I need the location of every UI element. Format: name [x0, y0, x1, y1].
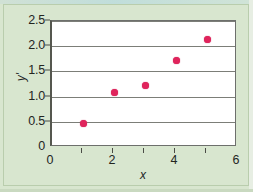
data-point — [80, 120, 87, 127]
y-tick-label: 1.0 — [28, 89, 45, 103]
x-tick-label: 0 — [47, 153, 54, 167]
right-edge-artifact — [249, 0, 253, 192]
x-tick-label: 4 — [171, 153, 178, 167]
data-point — [204, 36, 211, 43]
x-tick-mark — [81, 148, 82, 153]
x-tick-label: 6 — [233, 153, 240, 167]
x-tick-mark — [143, 148, 144, 153]
data-point — [111, 89, 118, 96]
gridline — [52, 97, 235, 98]
x-tick-label: 2 — [109, 153, 116, 167]
gridline — [52, 21, 235, 22]
chart-figure: 00.51.01.52.02.5 0246 x y' — [0, 0, 253, 192]
x-axis-label: x — [50, 168, 236, 182]
x-tick-mark — [174, 148, 175, 153]
gridline — [52, 46, 235, 47]
y-tick-label: 0 — [38, 139, 45, 153]
x-tick-mark — [205, 148, 206, 153]
plot-area — [50, 20, 236, 146]
x-tick-mark — [112, 148, 113, 153]
bottom-edge-artifact — [0, 189, 253, 192]
y-tick-label: 2.0 — [28, 38, 45, 52]
y-tick-label: 1.5 — [28, 63, 45, 77]
y-tick-label: 2.5 — [28, 13, 45, 27]
y-axis-label: y' — [14, 65, 28, 89]
y-tick-label: 0.5 — [28, 114, 45, 128]
data-point — [142, 82, 149, 89]
gridline — [52, 71, 235, 72]
top-edge-artifact — [0, 0, 253, 4]
data-point — [173, 57, 180, 64]
x-axis-tick-labels: 0246 — [50, 148, 236, 170]
